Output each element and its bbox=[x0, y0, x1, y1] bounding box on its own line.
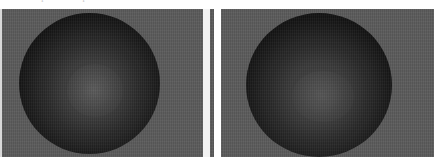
bottom-margin bbox=[0, 157, 434, 167]
panel-gutter-divider bbox=[203, 9, 210, 157]
right-panel bbox=[221, 9, 434, 157]
left-sphere-render bbox=[19, 13, 160, 154]
left-sphere-highlight bbox=[67, 64, 123, 118]
right-sphere-render bbox=[246, 13, 392, 157]
left-margin-strip bbox=[0, 9, 2, 157]
right-sphere-highlight bbox=[292, 71, 353, 123]
figure-container: rendered sphere comparison bbox=[0, 0, 434, 167]
left-panel bbox=[0, 9, 214, 157]
caption-remnant-text: rendered sphere comparison bbox=[0, 0, 434, 3]
panel-row bbox=[0, 9, 434, 157]
